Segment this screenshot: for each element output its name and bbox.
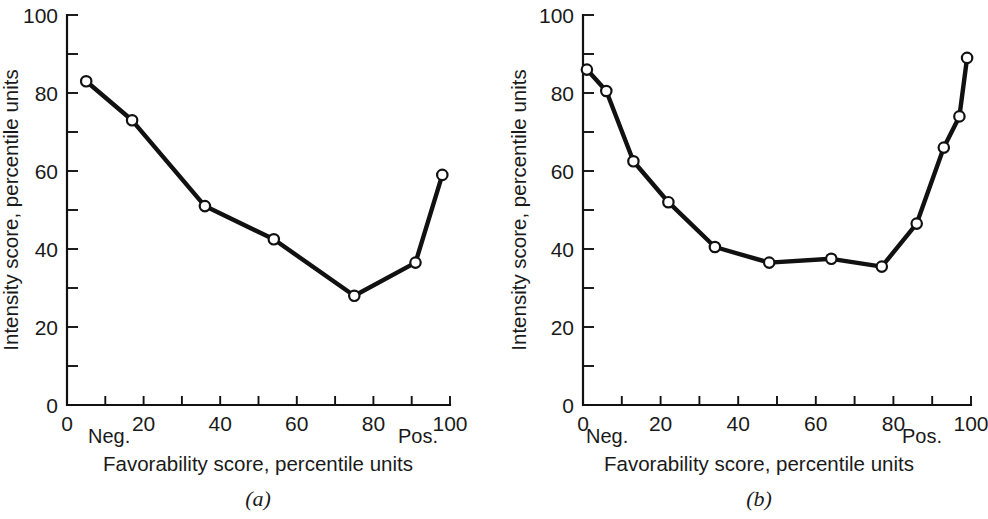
data-point	[939, 142, 949, 152]
data-point	[349, 291, 359, 301]
x-axis-pos-label-b: Pos.	[902, 425, 942, 447]
data-point	[127, 115, 137, 125]
y-tick-label: 60	[35, 160, 58, 183]
data-point	[710, 242, 720, 252]
y-axis-title-a: Intensity score, percentile units	[0, 69, 22, 350]
x-tick-label: 40	[727, 412, 750, 435]
axis-group-b	[583, 15, 971, 405]
panel-caption-a: (a)	[245, 486, 271, 511]
y-axis-title-b: Intensity score, percentile units	[507, 69, 530, 350]
x-tick-label: 100	[953, 412, 988, 435]
data-point	[826, 254, 836, 264]
x-axis-title-b: Favorability score, percentile units	[604, 452, 914, 475]
y-tick-label: 40	[35, 238, 58, 261]
tick-group-b	[583, 15, 971, 405]
x-axis-title-a: Favorability score, percentile units	[103, 452, 413, 475]
y-tick-label: 100	[539, 4, 574, 27]
data-series-line-b	[587, 58, 967, 267]
y-tick-label: 80	[551, 82, 574, 105]
axis-group-a	[67, 15, 450, 405]
x-tick-label: 60	[285, 412, 308, 435]
data-point	[601, 86, 611, 96]
data-point	[81, 76, 91, 86]
data-point	[663, 197, 673, 207]
figure-root: 020406080100020406080100 Neg. Pos. Favor…	[0, 0, 988, 519]
data-point	[962, 53, 972, 63]
x-tick-label: 20	[132, 412, 155, 435]
chart-a-svg: 020406080100020406080100 Neg. Pos. Favor…	[0, 0, 494, 519]
tick-label-group-a: 020406080100020406080100	[23, 4, 468, 435]
data-point	[877, 261, 887, 271]
data-series-line-a	[86, 81, 442, 295]
plot-axes	[583, 15, 971, 405]
y-tick-label: 0	[46, 394, 58, 417]
data-point	[628, 156, 638, 166]
data-point	[764, 257, 774, 267]
data-point	[912, 218, 922, 228]
y-tick-label: 20	[551, 316, 574, 339]
chart-panel-a: 020406080100020406080100 Neg. Pos. Favor…	[0, 0, 494, 519]
x-axis-neg-label-b: Neg.	[586, 425, 628, 447]
y-tick-label: 80	[35, 82, 58, 105]
plot-axes	[67, 15, 450, 405]
y-tick-label: 60	[551, 160, 574, 183]
data-point-group-b	[582, 53, 973, 272]
chart-b-svg: 020406080100020406080100 Neg. Pos. Favor…	[494, 0, 988, 519]
panel-caption-b: (b)	[746, 486, 772, 511]
x-tick-label: 20	[649, 412, 672, 435]
y-tick-label: 100	[23, 4, 58, 27]
x-tick-label: 40	[209, 412, 232, 435]
chart-panel-b: 020406080100020406080100 Neg. Pos. Favor…	[494, 0, 988, 519]
data-point	[200, 201, 210, 211]
data-point	[410, 257, 420, 267]
data-point	[954, 111, 964, 121]
x-tick-label: 0	[61, 412, 73, 435]
x-tick-label: 60	[804, 412, 827, 435]
y-tick-label: 20	[35, 316, 58, 339]
data-point	[582, 64, 592, 74]
x-axis-pos-label-a: Pos.	[398, 425, 438, 447]
data-point	[269, 234, 279, 244]
y-tick-label: 0	[562, 394, 574, 417]
x-axis-neg-label-a: Neg.	[88, 425, 130, 447]
y-tick-label: 40	[551, 238, 574, 261]
x-tick-label: 80	[362, 412, 385, 435]
data-point-group-a	[81, 76, 447, 301]
data-point	[437, 170, 447, 180]
tick-group-a	[67, 15, 450, 405]
